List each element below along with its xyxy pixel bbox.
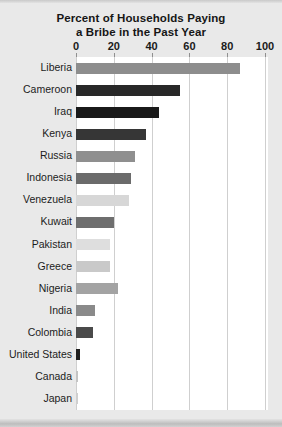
bar-japan: [76, 393, 78, 404]
category-label-united-states: United States: [9, 348, 72, 360]
category-label-kenya: Kenya: [42, 127, 72, 139]
x-tick-label-40: 40: [145, 40, 157, 52]
bar-iraq: [76, 107, 159, 118]
bar-indonesia: [76, 173, 131, 184]
bar-kuwait: [76, 217, 114, 228]
category-label-cameroon: Cameroon: [23, 83, 72, 95]
category-label-greece: Greece: [38, 260, 72, 272]
category-label-nigeria: Nigeria: [39, 282, 72, 294]
x-tick-label-0: 0: [73, 40, 79, 52]
gridline-100: [265, 57, 266, 410]
gridline-60: [189, 57, 190, 410]
chart-title-line-2: a Bribe in the Past Year: [0, 25, 282, 39]
category-label-pakistan: Pakistan: [32, 238, 72, 250]
category-label-iraq: Iraq: [54, 105, 72, 117]
gridline-80: [227, 57, 228, 410]
bar-venezuela: [76, 195, 129, 206]
x-tick-label-80: 80: [221, 40, 233, 52]
bar-india: [76, 305, 95, 316]
bar-canada: [76, 371, 78, 382]
bar-russia: [76, 151, 135, 162]
bar-united-states: [76, 349, 80, 360]
x-tick-label-100: 100: [256, 40, 274, 52]
figure-bottom-edge: [0, 419, 282, 427]
bar-liberia: [76, 63, 240, 74]
category-label-liberia: Liberia: [40, 61, 72, 73]
bar-nigeria: [76, 283, 118, 294]
figure-top-edge: [0, 0, 282, 3]
x-tick-label-20: 20: [108, 40, 120, 52]
category-label-india: India: [49, 304, 72, 316]
category-label-indonesia: Indonesia: [26, 171, 72, 183]
chart-title: Percent of Households Paying a Bribe in …: [0, 11, 282, 39]
bar-cameroon: [76, 85, 180, 96]
bar-greece: [76, 261, 110, 272]
chart-title-line-1: Percent of Households Paying: [0, 11, 282, 25]
bar-kenya: [76, 129, 146, 140]
category-label-canada: Canada: [35, 370, 72, 382]
bar-pakistan: [76, 239, 110, 250]
chart-figure: Percent of Households Paying a Bribe in …: [0, 0, 282, 427]
x-tick-label-60: 60: [183, 40, 195, 52]
category-label-japan: Japan: [43, 392, 72, 404]
category-label-russia: Russia: [40, 149, 72, 161]
plot-area: [76, 57, 268, 410]
category-label-colombia: Colombia: [28, 326, 72, 338]
category-label-kuwait: Kuwait: [40, 215, 72, 227]
category-label-venezuela: Venezuela: [23, 193, 72, 205]
bar-colombia: [76, 327, 93, 338]
